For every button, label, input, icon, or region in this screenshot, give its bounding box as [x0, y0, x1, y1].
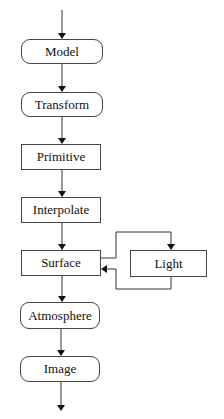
- node-image-label: Image: [44, 361, 76, 377]
- node-light-label: Light: [154, 256, 182, 272]
- node-model-label: Model: [45, 44, 79, 60]
- node-primitive: Primitive: [21, 144, 101, 170]
- node-surface-label: Surface: [41, 255, 81, 271]
- node-atmosphere: Atmosphere: [20, 302, 100, 329]
- node-interpolate-label: Interpolate: [33, 202, 89, 218]
- node-transform-label: Transform: [35, 97, 89, 113]
- node-atmosphere-label: Atmosphere: [28, 308, 92, 324]
- node-interpolate: Interpolate: [21, 197, 101, 223]
- node-surface: Surface: [21, 250, 101, 276]
- node-model: Model: [21, 39, 103, 64]
- node-transform: Transform: [21, 92, 103, 117]
- node-image: Image: [20, 356, 100, 382]
- node-primitive-label: Primitive: [37, 149, 85, 165]
- node-light: Light: [130, 250, 207, 277]
